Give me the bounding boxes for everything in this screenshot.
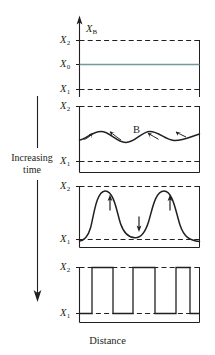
panel-3-composition-wave xyxy=(80,191,200,242)
panel-3 xyxy=(76,186,200,248)
increasing-time-line2: time xyxy=(1,164,63,176)
panel-4-label-x1: X1 xyxy=(60,308,70,319)
panel-4-square-profile xyxy=(80,268,200,314)
increasing-time-label: Increasing time xyxy=(1,152,63,176)
panel-2-label-x2: X2 xyxy=(60,101,70,112)
panel-1-label-x2: X2 xyxy=(60,35,70,46)
spinodal-decomposition-figure xyxy=(0,0,215,355)
panel-3-arrow-down-middle xyxy=(137,217,142,233)
panel-3-label-x2: X2 xyxy=(60,181,70,192)
y-axis-title: XB xyxy=(86,24,97,35)
panel-4-label-x2: X2 xyxy=(60,262,70,273)
increasing-time-arrow xyxy=(34,96,42,302)
panel-3-label-x1: X1 xyxy=(60,234,70,245)
panel-2-arrow-4 xyxy=(176,132,186,137)
panel-4 xyxy=(76,267,200,323)
increasing-time-line1: Increasing xyxy=(1,152,63,164)
panel-1-label-x0: X0 xyxy=(60,59,70,70)
panel-2-curve-label-b: B xyxy=(133,125,140,136)
panel-2 xyxy=(76,106,200,173)
panel-2-arrow-3 xyxy=(148,133,159,139)
x-axis-label: Distance xyxy=(0,336,215,347)
panel-1-label-x1: X1 xyxy=(60,84,70,95)
